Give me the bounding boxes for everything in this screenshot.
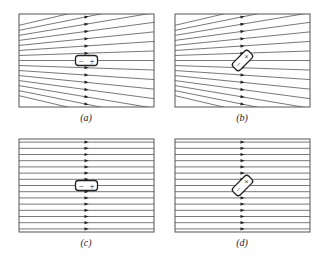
- arrowhead-icon: [241, 221, 245, 224]
- arrowhead-icon: [85, 159, 89, 162]
- panel-b: −+: [175, 0, 312, 128]
- negative-charge: −: [78, 56, 83, 66]
- panel-a: −+: [19, 0, 156, 128]
- negative-charge: −: [78, 181, 83, 191]
- arrowhead-icon: [241, 172, 245, 175]
- arrowhead-icon: [240, 81, 244, 85]
- arrowhead-icon: [85, 227, 89, 230]
- arrowhead-icon: [85, 196, 89, 199]
- positive-charge: +: [89, 181, 94, 191]
- arrowhead-icon: [85, 215, 89, 218]
- arrowhead-icon: [85, 153, 89, 156]
- dipole: −+: [231, 174, 254, 197]
- arrowhead-icon: [240, 37, 244, 41]
- arrowhead-icon: [85, 209, 89, 212]
- arrowhead-icon: [240, 7, 245, 11]
- positive-charge: +: [89, 56, 94, 66]
- arrowhead-icon: [85, 141, 89, 144]
- arrowhead-icon: [84, 81, 88, 85]
- panel-c: −+: [19, 139, 154, 232]
- arrowhead-icon: [85, 221, 89, 224]
- arrowhead-icon: [241, 165, 245, 168]
- arrowhead-icon: [85, 172, 89, 175]
- arrowhead-icon: [241, 196, 245, 199]
- dipole-field-diagram: −+−+−+−+: [0, 0, 328, 262]
- arrowhead-icon: [241, 159, 245, 162]
- caption-d: (d): [222, 237, 262, 248]
- arrowhead-icon: [85, 203, 89, 206]
- arrowhead-icon: [241, 209, 245, 212]
- arrowhead-icon: [84, 7, 89, 11]
- dipole: −+: [76, 181, 98, 191]
- arrowhead-icon: [240, 44, 244, 47]
- arrowhead-icon: [84, 37, 88, 41]
- arrowhead-icon: [84, 73, 88, 76]
- arrowhead-icon: [84, 52, 88, 55]
- arrowhead-icon: [241, 147, 245, 150]
- arrowhead-icon: [85, 147, 89, 150]
- arrowhead-icon: [241, 153, 245, 156]
- arrowhead-icon: [84, 44, 88, 47]
- arrowhead-icon: [85, 165, 89, 168]
- panel-d: −+: [175, 139, 310, 232]
- dipole: −+: [76, 56, 98, 66]
- caption-a: (a): [66, 112, 106, 123]
- arrowhead-icon: [241, 141, 245, 144]
- caption-b: (b): [222, 112, 262, 123]
- arrowhead-icon: [240, 73, 244, 76]
- arrowhead-icon: [241, 215, 245, 218]
- caption-c: (c): [66, 237, 106, 248]
- arrowhead-icon: [84, 66, 88, 69]
- arrowhead-icon: [241, 227, 245, 230]
- arrowhead-icon: [241, 203, 245, 206]
